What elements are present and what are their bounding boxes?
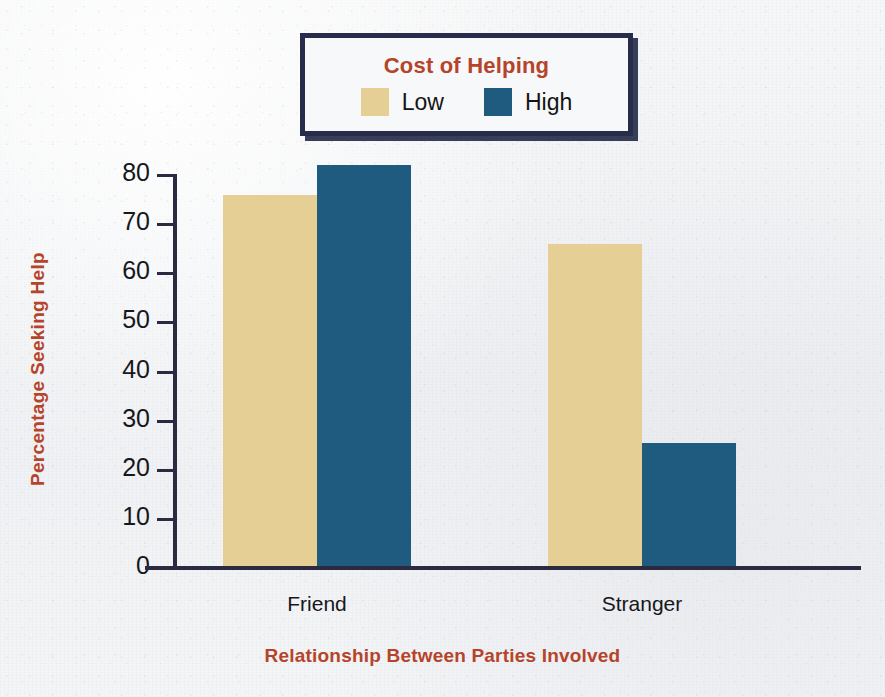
y-tick-label-0: 0 <box>88 551 150 580</box>
bar-stranger-low <box>548 244 642 568</box>
y-tick-label-50: 50 <box>88 305 150 334</box>
y-tick-label-20: 20 <box>88 453 150 482</box>
y-tick-label-30: 30 <box>88 404 150 433</box>
y-axis-title: Percentage Seeking Help <box>27 219 49 519</box>
x-category-label-friend: Friend <box>183 592 451 616</box>
bar-chart: Percentage Seeking Help Relationship Bet… <box>0 0 885 697</box>
y-axis-line <box>173 174 177 570</box>
y-tick-40 <box>157 371 174 374</box>
y-tick-60 <box>157 272 174 275</box>
x-axis-line <box>145 566 861 570</box>
y-tick-10 <box>157 518 174 521</box>
y-tick-30 <box>157 420 174 423</box>
y-tick-label-70: 70 <box>88 207 150 236</box>
x-category-label-stranger: Stranger <box>508 592 776 616</box>
bar-friend-low <box>223 195 317 568</box>
y-tick-20 <box>157 469 174 472</box>
bar-friend-high <box>317 165 411 568</box>
y-tick-label-10: 10 <box>88 502 150 531</box>
y-tick-label-60: 60 <box>88 256 150 285</box>
y-tick-label-40: 40 <box>88 355 150 384</box>
y-tick-70 <box>157 223 174 226</box>
bar-stranger-high <box>642 443 736 568</box>
y-tick-80 <box>157 174 174 177</box>
y-tick-label-80: 80 <box>88 158 150 187</box>
y-tick-50 <box>157 321 174 324</box>
x-axis-title: Relationship Between Parties Involved <box>0 645 885 667</box>
